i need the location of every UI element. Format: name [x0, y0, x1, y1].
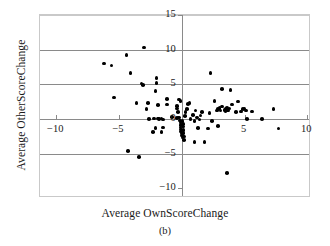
data-point — [154, 126, 158, 130]
data-point — [102, 62, 106, 66]
y-tick-5 — [178, 84, 182, 85]
data-point — [135, 101, 139, 105]
data-point — [236, 100, 240, 104]
data-point — [145, 107, 149, 111]
data-point — [234, 110, 238, 114]
y-tick-label-5: 5 — [141, 77, 176, 88]
scatter-plot-figure: Average OtherScoreChange 151050−5−10−10−… — [0, 0, 330, 246]
data-point — [260, 117, 264, 121]
data-point — [250, 110, 254, 114]
data-point — [225, 171, 229, 175]
data-point — [199, 114, 203, 118]
data-point — [219, 109, 223, 113]
data-point — [193, 140, 197, 144]
data-point — [198, 118, 202, 122]
x-tick-label-5: 5 — [224, 123, 264, 134]
x-axis-title: Average OwnScoreChange — [0, 206, 330, 220]
y-axis-title: Average OtherScoreChange — [14, 5, 28, 205]
data-point — [230, 103, 234, 107]
data-point — [193, 119, 197, 123]
data-point — [245, 117, 249, 121]
data-point — [161, 126, 165, 130]
plot-area — [39, 14, 310, 197]
y-tick-label-15: 15 — [141, 8, 176, 19]
data-point — [129, 71, 133, 75]
data-point — [272, 107, 276, 111]
data-point — [208, 111, 212, 115]
panel-caption: (b) — [0, 224, 330, 237]
data-point — [126, 149, 130, 153]
data-point — [182, 138, 186, 142]
data-point — [112, 96, 116, 100]
data-point — [216, 124, 220, 128]
y-tick-15 — [178, 15, 182, 16]
y-axis-line — [182, 15, 183, 196]
data-point — [277, 127, 281, 131]
data-point — [183, 114, 187, 118]
data-point — [185, 107, 189, 111]
data-point — [220, 87, 224, 91]
x-tick-label--10: −10 — [35, 123, 75, 134]
data-point — [200, 110, 204, 114]
data-point — [209, 71, 213, 75]
data-point — [125, 53, 129, 57]
data-point — [229, 88, 233, 92]
data-point — [165, 103, 169, 107]
data-point — [156, 103, 160, 107]
data-point — [244, 109, 248, 113]
x-tick-label-10: 10 — [286, 123, 326, 134]
data-point — [179, 99, 183, 103]
data-point — [210, 119, 214, 123]
y-tick-label-0: 0 — [141, 112, 176, 123]
data-point — [151, 130, 155, 134]
y-tick--5 — [178, 154, 182, 155]
y-tick-10 — [178, 50, 182, 51]
data-point — [110, 64, 114, 68]
data-point — [194, 109, 198, 113]
data-point — [160, 130, 164, 134]
x-tick--5 — [119, 115, 120, 119]
y-tick--10 — [178, 188, 182, 189]
y-tick-label-10: 10 — [141, 43, 176, 54]
data-point — [203, 140, 207, 144]
data-point — [146, 101, 150, 105]
x-tick--10 — [56, 115, 57, 119]
data-point — [189, 117, 193, 121]
y-tick-label--5: −5 — [141, 147, 176, 158]
data-point — [188, 101, 192, 105]
data-point — [165, 97, 169, 101]
x-tick-label--5: −5 — [98, 123, 138, 134]
data-point — [154, 89, 158, 93]
data-point — [228, 107, 232, 111]
x-tick-10 — [307, 115, 308, 119]
data-point — [196, 126, 200, 130]
y-tick-label--10: −10 — [141, 181, 176, 192]
data-point — [206, 127, 210, 131]
data-point — [213, 99, 217, 103]
data-point — [176, 110, 180, 114]
